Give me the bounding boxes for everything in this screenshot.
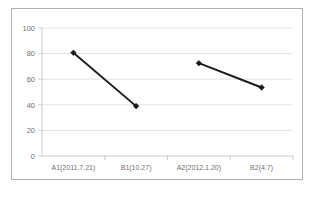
y-tick-label-80: 80 [27,49,35,58]
x-tick-label-a2: A2(2012.1.20) [177,164,221,172]
gridlines-group [42,28,293,130]
x-tick-labels: A1(2011.7.21) B1(10.27) A2(2012.1.20) B2… [51,164,273,172]
y-tick-labels: 100 80 60 40 20 0 [22,24,35,161]
y-tick-marks [39,28,43,156]
y-tick-label-60: 60 [27,75,35,84]
series-line-segment-2[interactable] [199,63,262,87]
data-point-b2[interactable] [259,85,265,91]
x-tick-label-b1: B1(10.27) [121,164,152,172]
y-tick-label-0: 0 [31,152,35,161]
x-tick-label-a1: A1(2011.7.21) [51,164,95,172]
y-tick-label-40: 40 [27,101,35,110]
data-point-a2[interactable] [196,60,202,66]
x-tick-label-b2: B2(4.7) [250,164,273,172]
line-chart[interactable]: 100 80 60 40 20 0 A1(2011.7.21) B1(10.27… [12,9,302,179]
y-tick-label-100: 100 [22,24,35,33]
y-tick-label-20: 20 [27,126,35,135]
series-segment-2[interactable] [196,60,264,90]
x-tick-marks [105,156,293,160]
chart-frame: 100 80 60 40 20 0 A1(2011.7.21) B1(10.27… [11,8,303,180]
figure-container: 100 80 60 40 20 0 A1(2011.7.21) B1(10.27… [0,0,322,201]
